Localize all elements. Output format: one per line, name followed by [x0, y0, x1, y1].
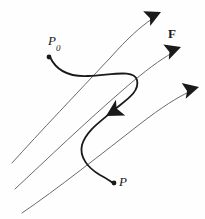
field-line-middle: [15, 53, 172, 189]
label-start-point-text: P: [48, 33, 56, 48]
field-arrowheads-group: [141, 3, 201, 99]
field-line-top-arrowhead-icon: [141, 3, 164, 26]
label-end-point-text: P: [119, 174, 127, 189]
start-point-marker: [47, 55, 52, 60]
field-line-bottom: [22, 92, 189, 213]
trajectory-arrowhead-icon: [102, 100, 127, 125]
label-start-point: P0: [48, 34, 60, 51]
label-vector-field: F: [168, 27, 176, 40]
label-end-point: P: [119, 175, 127, 188]
field-lines-group: [12, 19, 189, 213]
label-start-point-subscript: 0: [56, 43, 61, 53]
trajectory-group: [47, 55, 138, 186]
end-point-marker: [112, 181, 117, 186]
vector-field-figure: P0 P F: [0, 0, 205, 219]
trajectory-curve: [50, 57, 137, 183]
field-line-top: [12, 19, 152, 163]
